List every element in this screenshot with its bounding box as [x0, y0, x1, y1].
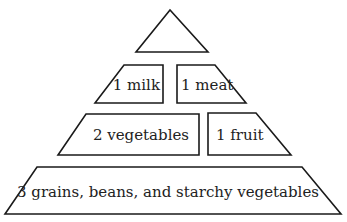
- meat-label: 1 meat: [181, 76, 233, 94]
- vegetables-label: 2 vegetables: [93, 126, 189, 144]
- food-pyramid-diagram: 1 milk 1 meat 2 vegetables 1 fruit 3 gra…: [0, 0, 347, 222]
- top-triangle: [136, 10, 208, 52]
- tier-vegetables-fruit: 2 vegetables 1 fruit: [58, 113, 291, 155]
- tier-grains: 3 grains, beans, and starchy vegetables: [5, 167, 341, 214]
- grains-label: 3 grains, beans, and starchy vegetables: [17, 183, 319, 201]
- tier-milk-meat: 1 milk 1 meat: [95, 65, 246, 103]
- fruit-label: 1 fruit: [216, 126, 264, 144]
- milk-label: 1 milk: [113, 76, 161, 94]
- tier-top: [136, 10, 208, 52]
